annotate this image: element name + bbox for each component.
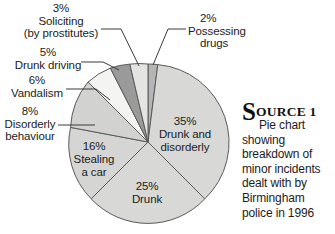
callout-disorderly-line2: behaviour xyxy=(0,130,60,143)
slice-label-drunk-pct: 25% xyxy=(118,180,176,193)
callout-possessing-drugs-line1: Possessing xyxy=(188,25,246,38)
slice-label-drunk-and-disorderly: 35% Drunk and disorderly xyxy=(144,115,226,154)
source-heading: SOURCE 1 xyxy=(242,104,335,119)
source-caption-text: Pie chart showing breakdown of minor inc… xyxy=(242,118,335,220)
source-heading-dropcap: S xyxy=(242,103,256,121)
leader-line-soliciting xyxy=(101,29,139,66)
callout-soliciting: 3% Soliciting (by prostitutes) xyxy=(18,2,104,40)
callout-disorderly-pct: 8% xyxy=(0,105,60,118)
source-heading-rest: OURCE 1 xyxy=(256,104,316,119)
callout-vandalism-pct: 6% xyxy=(6,74,68,87)
source-caption-line-1: Pie chart xyxy=(259,118,335,133)
callout-soliciting-pct: 3% xyxy=(18,2,104,15)
slice-label-stealing-a-car-line2: a car xyxy=(65,166,123,179)
slice-label-stealing-a-car-line1: Stealing xyxy=(65,153,123,166)
callout-possessing-drugs: 2% Possessing drugs xyxy=(188,12,246,50)
callout-drunk-driving-line1: Drunk driving xyxy=(14,59,82,72)
callout-vandalism: 6% Vandalism xyxy=(6,74,68,99)
callout-drunk-driving-pct: 5% xyxy=(14,46,82,59)
source-caption-line-5: dealt with by xyxy=(242,176,335,191)
source-caption-line-4: minor incidents xyxy=(242,162,335,177)
leader-line-possessing-drugs xyxy=(153,29,186,65)
callout-drunk-driving: 5% Drunk driving xyxy=(14,46,82,71)
pie-chart-figure: 3% Soliciting (by prostitutes) 5% Drunk … xyxy=(0,0,335,234)
callout-disorderly-behaviour: 8% Disorderly behaviour xyxy=(0,105,60,143)
slice-label-drunk-and-disorderly-line2: disorderly xyxy=(144,141,226,154)
callout-vandalism-line1: Vandalism xyxy=(6,87,68,100)
slice-label-stealing-a-car-pct: 16% xyxy=(65,140,123,153)
callout-soliciting-line2: (by prostitutes) xyxy=(18,27,104,40)
callout-possessing-drugs-line2: drugs xyxy=(200,37,246,50)
slice-label-drunk: 25% Drunk xyxy=(118,180,176,206)
source-caption-line-2: showing xyxy=(242,133,335,148)
slice-label-drunk-line1: Drunk xyxy=(118,193,176,206)
slice-label-stealing-a-car: 16% Stealing a car xyxy=(65,140,123,179)
source-caption-line-3: breakdown of xyxy=(242,147,335,162)
callout-possessing-drugs-pct: 2% xyxy=(200,12,246,25)
slice-label-drunk-and-disorderly-line1: Drunk and xyxy=(144,128,226,141)
slice-label-drunk-and-disorderly-pct: 35% xyxy=(144,115,226,128)
callout-disorderly-line1: Disorderly xyxy=(0,118,60,131)
source-caption-line-6: Birmingham xyxy=(242,191,335,206)
callout-soliciting-line1: Soliciting xyxy=(18,15,104,28)
source-caption-line-7: police in 1996 xyxy=(242,206,335,221)
source-caption-block: SOURCE 1 Pie chart showing breakdown of … xyxy=(242,104,335,220)
